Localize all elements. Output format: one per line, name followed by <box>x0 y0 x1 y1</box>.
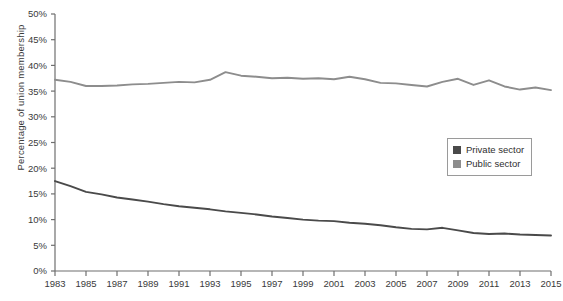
legend-swatch-public <box>453 160 461 168</box>
x-axis-ticks: 1983198519871989199119931995199719992001… <box>44 271 561 289</box>
svg-text:2003: 2003 <box>354 278 375 289</box>
y-axis-ticks: 0%5%10%15%20%25%30%35%40%45%50% <box>28 8 55 276</box>
svg-text:2011: 2011 <box>479 278 499 289</box>
union-membership-line-chart: Percentage of union membership 0%5%10%15… <box>0 0 563 301</box>
series-line-private <box>55 181 551 235</box>
svg-text:1987: 1987 <box>106 278 127 289</box>
legend-item-public: Public sector <box>453 157 524 171</box>
svg-text:0%: 0% <box>33 265 47 276</box>
svg-text:5%: 5% <box>33 240 47 251</box>
svg-text:1999: 1999 <box>292 278 313 289</box>
svg-text:2001: 2001 <box>323 278 344 289</box>
svg-text:20%: 20% <box>28 163 48 174</box>
svg-text:2005: 2005 <box>385 278 406 289</box>
svg-text:2007: 2007 <box>416 278 437 289</box>
svg-text:1985: 1985 <box>75 278 96 289</box>
legend-item-private: Private sector <box>453 143 524 157</box>
legend-swatch-private <box>453 146 461 154</box>
svg-text:30%: 30% <box>28 111 48 122</box>
svg-text:2015: 2015 <box>540 278 561 289</box>
legend-label-private: Private sector <box>466 143 524 157</box>
svg-text:1989: 1989 <box>137 278 158 289</box>
series-line-public <box>55 72 551 90</box>
svg-text:1991: 1991 <box>168 278 189 289</box>
legend-label-public: Public sector <box>466 157 520 171</box>
svg-text:25%: 25% <box>28 137 48 148</box>
svg-text:2013: 2013 <box>509 278 530 289</box>
svg-text:2009: 2009 <box>447 278 468 289</box>
svg-text:1995: 1995 <box>230 278 251 289</box>
chart-legend: Private sector Public sector <box>447 138 532 176</box>
svg-text:10%: 10% <box>28 214 48 225</box>
svg-text:40%: 40% <box>28 60 48 71</box>
svg-text:15%: 15% <box>28 188 48 199</box>
svg-text:45%: 45% <box>28 34 48 45</box>
svg-text:35%: 35% <box>28 86 48 97</box>
svg-text:1983: 1983 <box>44 278 65 289</box>
svg-text:1993: 1993 <box>199 278 220 289</box>
svg-text:1997: 1997 <box>261 278 282 289</box>
svg-text:50%: 50% <box>28 8 48 19</box>
